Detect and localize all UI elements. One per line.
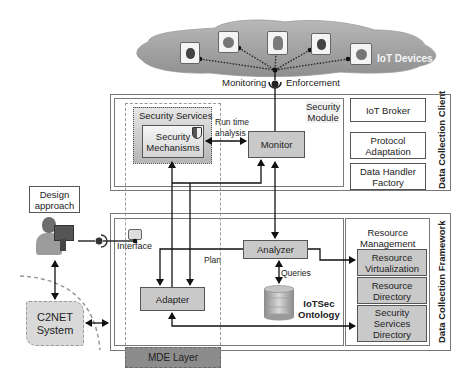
ontology-database-icon xyxy=(264,286,294,321)
connection-lines xyxy=(0,0,469,386)
